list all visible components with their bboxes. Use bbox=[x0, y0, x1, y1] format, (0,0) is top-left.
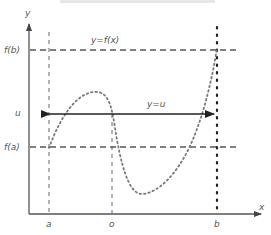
x-axis-label: x bbox=[258, 202, 265, 212]
fa-label: f(a) bbox=[4, 142, 20, 152]
fb-label: f(b) bbox=[4, 45, 20, 55]
curve-label: y=f(x) bbox=[90, 35, 119, 45]
u-label: u bbox=[15, 108, 21, 118]
y-axis-label: y bbox=[24, 8, 31, 18]
b-tick-label: b bbox=[214, 219, 220, 229]
o-tick-label: o bbox=[109, 219, 115, 229]
ivt-diagram: y x f(b) u f(a) a o b y=f(x) y=u bbox=[0, 0, 271, 235]
u-line-label: y=u bbox=[146, 99, 166, 109]
a-tick-label: a bbox=[46, 219, 52, 229]
function-curve bbox=[49, 48, 217, 194]
